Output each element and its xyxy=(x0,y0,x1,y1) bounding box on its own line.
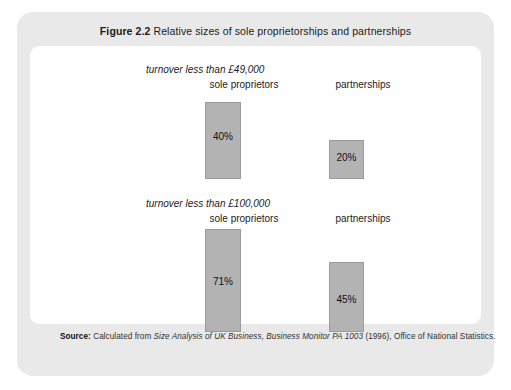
chart-group-2: turnover less than £100,000 sole proprie… xyxy=(30,186,481,324)
chart-plot-area: turnover less than £49,000 sole propriet… xyxy=(30,46,481,324)
bar-group1-partnerships: 20% xyxy=(329,140,364,179)
figure-card: Figure 2.2 Relative sizes of sole propri… xyxy=(17,12,494,376)
bar-value-group2-partnerships: 45% xyxy=(330,294,363,305)
bar-group2-partnerships: 45% xyxy=(329,262,364,332)
source-publication: Size Analysis of UK Business, Business M… xyxy=(154,332,363,341)
group-1-turnover-label: turnover less than £49,000 xyxy=(146,64,264,75)
figure-title: Figure 2.2 Relative sizes of sole propri… xyxy=(17,25,494,37)
chart-group-1: turnover less than £49,000 sole propriet… xyxy=(30,46,481,186)
bar-group1-sole-proprietors: 40% xyxy=(205,102,241,179)
source-prefix: Calculated from xyxy=(93,332,151,341)
figure-number: Figure 2.2 xyxy=(100,25,151,37)
figure-title-text: Relative sizes of sole proprietorships a… xyxy=(154,25,412,37)
source-note: Source: Calculated from Size Analysis of… xyxy=(60,332,495,341)
bar-value-group1-partnerships: 20% xyxy=(330,152,363,163)
bar-value-group1-sole-proprietors: 40% xyxy=(206,131,240,142)
group-1-category-partnerships: partnerships xyxy=(288,79,438,90)
group-2-turnover-label: turnover less than £100,000 xyxy=(146,198,270,209)
source-label: Source: xyxy=(60,332,91,341)
bar-value-group2-sole-proprietors: 71% xyxy=(206,276,240,287)
source-suffix: (1996), Office of National Statistics. xyxy=(365,332,495,341)
group-2-category-partnerships: partnerships xyxy=(288,213,438,224)
bar-group2-sole-proprietors: 71% xyxy=(205,229,241,332)
